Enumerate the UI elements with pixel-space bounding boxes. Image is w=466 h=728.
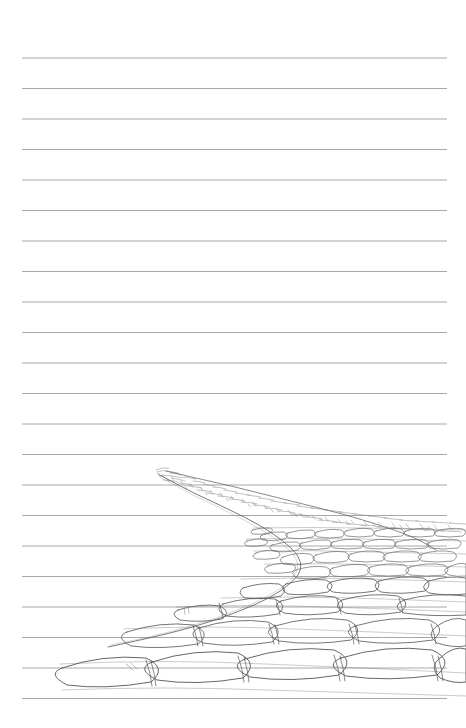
rule-line-group xyxy=(22,58,447,699)
notebook-page xyxy=(0,0,466,728)
ruled-lines-layer xyxy=(0,0,466,728)
